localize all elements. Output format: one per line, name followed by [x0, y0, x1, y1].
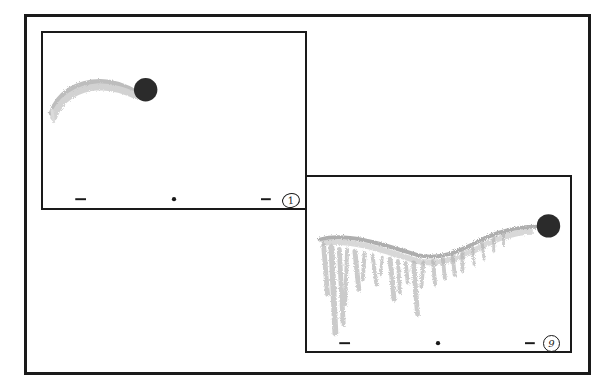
marker-dot-center: [436, 341, 440, 345]
motion-trail: [320, 227, 539, 334]
frame-number-label: 9: [543, 335, 560, 352]
ball-icon: [134, 78, 157, 101]
storyboard-panel-9: 9: [305, 175, 572, 353]
motion-trail: [52, 82, 138, 123]
marker-dot-center: [172, 197, 176, 201]
ball-icon: [537, 214, 560, 237]
panel-9-drawing: [307, 177, 570, 351]
panel-1-drawing: [43, 33, 305, 208]
storyboard-panel-1: 1: [41, 31, 307, 210]
